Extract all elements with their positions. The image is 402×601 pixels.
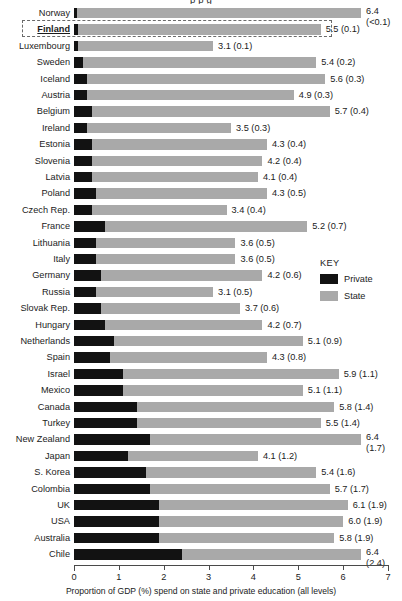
bar-segment-private [74, 270, 101, 280]
bar-segment-state [137, 418, 321, 428]
x-axis: 01234567 Proportion of GDP (%) spend on … [0, 565, 402, 601]
bar-segment-private [74, 484, 150, 494]
row-value-label: 5.7 (0.4) [335, 103, 369, 119]
row-total-value: 6.4 [366, 432, 379, 442]
bar-segment-state [96, 238, 235, 248]
bar-segment-private [74, 90, 87, 100]
x-tick-mark [253, 565, 254, 570]
x-tick-mark [119, 565, 120, 570]
row-total-value: 6.4 [366, 547, 379, 557]
bar-segment-state [105, 221, 307, 231]
x-tick-label: 2 [161, 572, 166, 582]
bar-segment-state [146, 467, 316, 477]
stacked-bar [74, 106, 330, 116]
stacked-bar [74, 8, 361, 18]
stacked-bar [74, 369, 339, 379]
stacked-bar [74, 221, 307, 231]
x-tick-mark [343, 565, 344, 570]
row-value-label: 3.6 (0.5) [240, 235, 274, 251]
row-label-new-zealand: New Zealand [0, 431, 70, 447]
chart-row: Netherlands5.1 (0.9) [0, 333, 402, 349]
education-spend-bar-chart: p p g Norway6.4(<0.1)Finland5.5 (0.1)Lux… [0, 0, 402, 601]
bar-segment-state [182, 549, 361, 559]
x-tick-label: 6 [341, 572, 346, 582]
row-label-norway: Norway [0, 5, 70, 21]
chart-row: USA6.0 (1.9) [0, 513, 402, 529]
stacked-bar [74, 484, 330, 494]
chart-row: Spain4.3 (0.8) [0, 349, 402, 365]
stacked-bar [74, 24, 321, 34]
row-label-chile: Chile [0, 546, 70, 562]
x-tick-label: 3 [206, 572, 211, 582]
stacked-bar [74, 238, 235, 248]
chart-row: Australia5.8 (1.9) [0, 530, 402, 546]
row-value-label: 6.0 (1.9) [348, 513, 382, 529]
chart-row: Colombia5.7 (1.7) [0, 481, 402, 497]
bar-segment-state [87, 90, 293, 100]
bar-segment-private [74, 500, 159, 510]
bar-segment-state [159, 516, 343, 526]
row-label-uk: UK [0, 497, 70, 513]
row-label-iceland: Iceland [0, 71, 70, 87]
stacked-bar [74, 123, 231, 133]
row-value-label: 5.4 (1.6) [321, 464, 355, 480]
stacked-bar [74, 385, 303, 395]
row-label-italy: Italy [0, 251, 70, 267]
chart-row: Canada5.8 (1.4) [0, 399, 402, 415]
bar-segment-private [74, 221, 105, 231]
x-tick-mark [209, 565, 210, 570]
bar-segment-private [74, 188, 96, 198]
stacked-bar [74, 254, 235, 264]
row-value-label: 4.3 (0.8) [272, 349, 306, 365]
row-value-label: 4.9 (0.3) [299, 87, 333, 103]
chart-row: Norway6.4(<0.1) [0, 5, 402, 21]
chart-row: Luxembourg3.1 (0.1) [0, 38, 402, 54]
bar-segment-private [74, 254, 96, 264]
bar-segment-private [74, 549, 182, 559]
row-label-russia: Russia [0, 284, 70, 300]
chart-row: Belgium5.7 (0.4) [0, 103, 402, 119]
bar-segment-state [96, 254, 235, 264]
stacked-bar [74, 303, 240, 313]
row-label-israel: Israel [0, 366, 70, 382]
stacked-bar [74, 451, 258, 461]
stacked-bar [74, 90, 294, 100]
row-label-australia: Australia [0, 530, 70, 546]
chart-row: Israel5.9 (1.1) [0, 366, 402, 382]
chart-row: Iceland5.6 (0.3) [0, 71, 402, 87]
row-value-label: 4.1 (1.2) [263, 448, 297, 464]
row-label-slovak-rep: Slovak Rep. [0, 300, 70, 316]
row-value-label: 3.5 (0.3) [236, 120, 270, 136]
legend-item-state: State [320, 291, 400, 301]
row-label-ireland: Ireland [0, 120, 70, 136]
stacked-bar [74, 139, 267, 149]
row-value-label: 6.1 (1.9) [353, 497, 387, 513]
bar-segment-private [74, 139, 92, 149]
bar-segment-private [74, 172, 92, 182]
row-label-sweden: Sweden [0, 54, 70, 70]
row-total-value: 6.4 [366, 6, 379, 16]
bar-segment-private [74, 352, 110, 362]
row-label-netherlands: Netherlands [0, 333, 70, 349]
row-label-slovenia: Slovenia [0, 153, 70, 169]
row-label-finland: Finland [0, 21, 70, 37]
row-value-label: 5.9 (1.1) [344, 366, 378, 382]
bar-segment-state [123, 369, 338, 379]
chart-row: S. Korea5.4 (1.6) [0, 464, 402, 480]
bar-segment-state [150, 484, 329, 494]
bar-segment-private [74, 106, 92, 116]
bar-segment-state [123, 385, 302, 395]
row-label-latvia: Latvia [0, 169, 70, 185]
row-value-label: 4.3 (0.4) [272, 136, 306, 152]
bar-segment-state [92, 106, 330, 116]
bar-segment-state [83, 57, 316, 67]
row-label-france: France [0, 218, 70, 234]
row-label-poland: Poland [0, 185, 70, 201]
row-label-germany: Germany [0, 267, 70, 283]
stacked-bar [74, 434, 361, 444]
bar-segment-state [92, 156, 262, 166]
bar-segment-state [77, 8, 362, 18]
chart-row: Czech Rep.3.4 (0.4) [0, 202, 402, 218]
bar-segment-state [110, 352, 267, 362]
row-value-label: 5.6 (0.3) [330, 71, 364, 87]
